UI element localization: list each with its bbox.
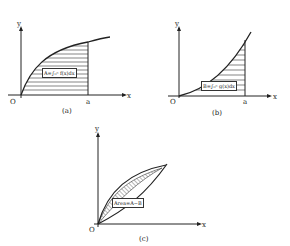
svg-text:O: O	[89, 226, 95, 234]
svg-text:x: x	[273, 93, 277, 101]
panel-a: y x O a	[8, 20, 131, 106]
svg-text:x: x	[202, 221, 206, 229]
panel-c: y x O	[89, 125, 206, 234]
svg-text:y: y	[94, 125, 99, 133]
svg-text:y: y	[174, 20, 179, 28]
formula-b: B=∫₀ᵃ g(x)dx	[201, 81, 237, 91]
panel-b: y x O a	[168, 20, 277, 106]
caption-b: (b)	[212, 109, 222, 117]
caption-a: (a)	[62, 107, 72, 115]
diagram-canvas: y x O a y x O a	[0, 0, 290, 246]
svg-text:x: x	[127, 92, 131, 100]
svg-text:a: a	[86, 98, 90, 106]
svg-text:y: y	[16, 20, 21, 28]
formula-a: A=∫₀ᵃ f(x)dx	[42, 68, 77, 78]
svg-text:O: O	[170, 98, 176, 106]
svg-text:a: a	[243, 98, 247, 106]
caption-c: (c)	[139, 235, 148, 243]
formula-c: Area=A−B	[112, 198, 144, 208]
svg-text:O: O	[10, 98, 16, 106]
